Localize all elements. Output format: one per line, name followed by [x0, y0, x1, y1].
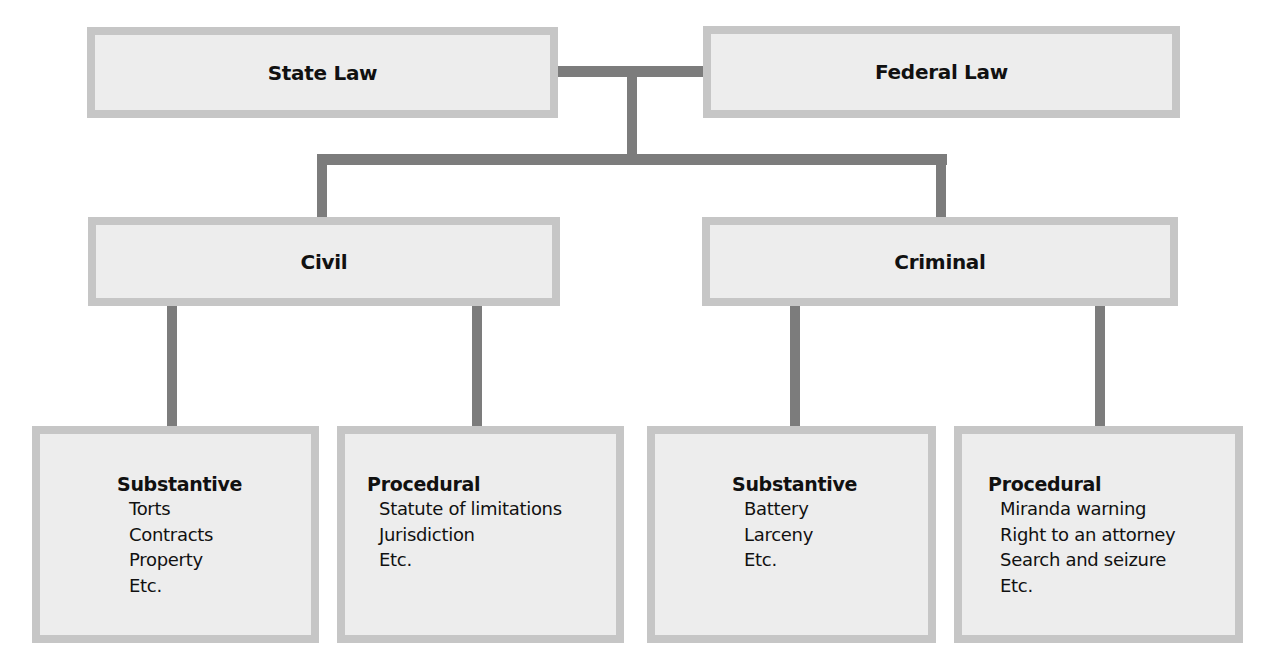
connector-criminal-procedural [1095, 303, 1105, 429]
connector-criminal-substantive [790, 303, 800, 429]
criminal-box: Criminal [702, 217, 1178, 306]
criminal-substantive-box: Substantive Battery Larceny Etc. [647, 426, 936, 643]
leaf-heading: Substantive [117, 472, 242, 496]
federal-law-label: Federal Law [875, 60, 1008, 84]
leaf-item: Battery [732, 496, 857, 522]
connector-civil-procedural [472, 303, 482, 429]
leaf-item: Property [117, 547, 242, 573]
leaf-item: Etc. [988, 573, 1175, 599]
leaf-heading: Procedural [988, 472, 1175, 496]
civil-substantive-box: Substantive Torts Contracts Property Etc… [32, 426, 319, 643]
connector-middle-horizontal [317, 154, 947, 165]
leaf-item: Larceny [732, 522, 857, 548]
leaf-item: Contracts [117, 522, 242, 548]
leaf-item: Etc. [732, 547, 857, 573]
federal-law-box: Federal Law [703, 26, 1180, 118]
connector-civil-substantive [167, 303, 177, 429]
civil-label: Civil [301, 250, 348, 274]
leaf-item: Statute of limitations [367, 496, 562, 522]
criminal-label: Criminal [894, 250, 985, 274]
connector-criminal-stem [936, 154, 946, 220]
civil-procedural-box: Procedural Statute of limitations Jurisd… [337, 426, 624, 643]
leaf-heading: Substantive [732, 472, 857, 496]
criminal-procedural-box: Procedural Miranda warning Right to an a… [954, 426, 1243, 643]
leaf-item: Torts [117, 496, 242, 522]
leaf-item: Etc. [367, 547, 562, 573]
connector-civil-stem [317, 154, 327, 220]
state-law-box: State Law [87, 27, 558, 118]
leaf-item: Search and seizure [988, 547, 1175, 573]
leaf-item: Etc. [117, 573, 242, 599]
state-law-label: State Law [268, 61, 378, 85]
connector-top-stem [627, 66, 637, 165]
leaf-heading: Procedural [367, 472, 562, 496]
leaf-item: Jurisdiction [367, 522, 562, 548]
leaf-item: Right to an attorney [988, 522, 1175, 548]
leaf-item: Miranda warning [988, 496, 1175, 522]
civil-box: Civil [88, 217, 560, 306]
